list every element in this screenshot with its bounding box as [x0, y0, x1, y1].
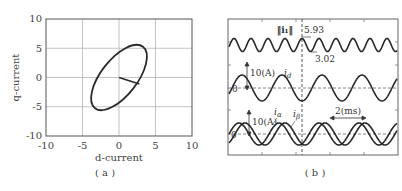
zero-label-iab: 0	[231, 130, 237, 140]
caption-b: ( b )	[305, 167, 326, 178]
xtick-5: 5	[152, 140, 158, 151]
zero-label-id: 0	[232, 84, 238, 94]
time-scale-label: 2(ms)	[335, 106, 361, 116]
ibeta-leader	[291, 121, 295, 127]
norm-min-value: 3.02	[315, 54, 335, 64]
caption-a: ( a )	[95, 167, 115, 178]
ibeta-label: iβ	[293, 109, 300, 121]
xtick-0: 0	[116, 140, 122, 151]
scale-label-iab: 10(A)	[252, 117, 277, 127]
ytick-5: 5	[36, 43, 42, 54]
panel-b: ‖i₁‖ 5.93 3.02 10(A) id 0 10(A) 0 iα iβ …	[228, 19, 398, 178]
scale-label-id: 10(A)	[250, 68, 275, 78]
ytick-10: 10	[29, 13, 42, 24]
figure: 10 5 0 -5 -10 -10 -5 0 5 10 d-current q-…	[0, 0, 402, 191]
ytick-neg5: -5	[32, 101, 42, 112]
norm-label: ‖i₁‖	[277, 25, 293, 36]
norm-max-value: 5.93	[304, 25, 324, 35]
current-vector	[119, 78, 139, 85]
xtick-neg5: -5	[78, 140, 88, 151]
xtick-10: 10	[186, 140, 199, 151]
ytick-0: 0	[36, 72, 42, 83]
xtick-neg10: -10	[38, 140, 54, 151]
time-scale-arrow	[330, 116, 366, 120]
id-label: id	[284, 68, 292, 80]
trace-norm-i1	[229, 39, 397, 52]
x-axis-label: d-current	[95, 152, 143, 163]
y-axis-label: q-current	[10, 54, 21, 102]
panel-a: 10 5 0 -5 -10 -10 -5 0 5 10 d-current q-…	[10, 13, 198, 178]
